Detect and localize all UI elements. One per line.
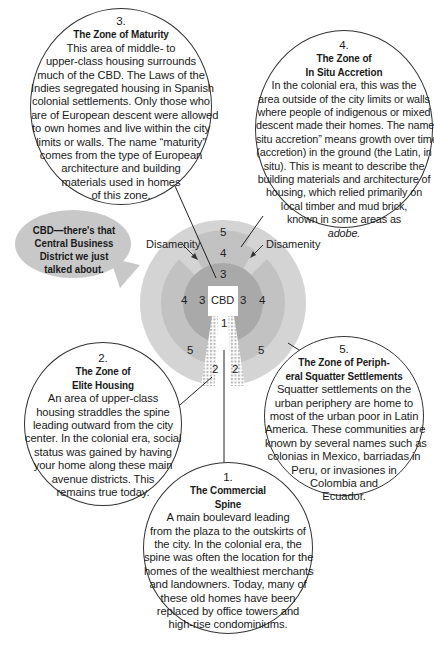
callout-number: 3. (31, 15, 211, 28)
zone-label-3-right: 3 (240, 294, 246, 306)
zone-label-4-right: 4 (259, 294, 265, 306)
speech-bubble-text: CBD—there's that Central Business Distri… (26, 224, 122, 276)
callout-commercial-spine: 1. The Commercial Spine A main boulevard… (143, 462, 313, 634)
callout-title: eral Squatter Settlements (273, 370, 415, 383)
callout-number: 4. (256, 39, 432, 52)
zone-label-3-top: 3 (220, 268, 226, 280)
bubble-line: talked about. (26, 263, 122, 276)
callout-title: The Zone of Maturity (40, 28, 202, 41)
zone-label-3-left: 3 (199, 294, 205, 306)
callout-zone-of-maturity: 3. The Zone of Maturity This area of mid… (30, 8, 212, 205)
callout-body: This area of middle- to upper-class hous… (31, 42, 211, 203)
zone-label-4-left: 4 (181, 294, 187, 306)
zone-label-4-top: 4 (220, 247, 226, 259)
bubble-line: CBD—there's that (26, 224, 122, 237)
zone-label-5-right: 5 (258, 344, 264, 356)
cbd-label: CBD (211, 294, 234, 306)
zone-label-5-top: 5 (220, 226, 226, 238)
bubble-line: Central Business (26, 237, 122, 250)
callout-title: The Commercial (152, 484, 303, 497)
bubble-line: District we just (26, 250, 122, 263)
callout-number: 5. (265, 343, 423, 356)
callout-title-italic: In Situ Accretion (265, 66, 423, 79)
callout-title: The Zone of (265, 52, 423, 65)
callout-body: A main boulevard leading from the plaza … (144, 511, 312, 632)
callout-zone-of-in-situ-accretion: 4. The Zone of In Situ Accretion In the … (255, 30, 433, 228)
callout-title: Spine (152, 498, 303, 511)
callout-title: Elite Housing (33, 379, 173, 392)
zone-label-2-left: 2 (212, 363, 218, 375)
zone-label-1: 1 (221, 317, 227, 329)
zone-label-2-right: 2 (232, 363, 238, 375)
callout-number: 2. (25, 352, 181, 365)
zone-label-5-left: 5 (187, 344, 193, 356)
callout-number: 1. (144, 471, 312, 484)
disamenity-label-left: Disamenity (146, 238, 200, 250)
callout-title: The Zone of Periph- (273, 356, 415, 369)
callout-title: The Zone of (33, 365, 173, 378)
callout-body: In the colonial era, this was the area o… (256, 79, 432, 240)
